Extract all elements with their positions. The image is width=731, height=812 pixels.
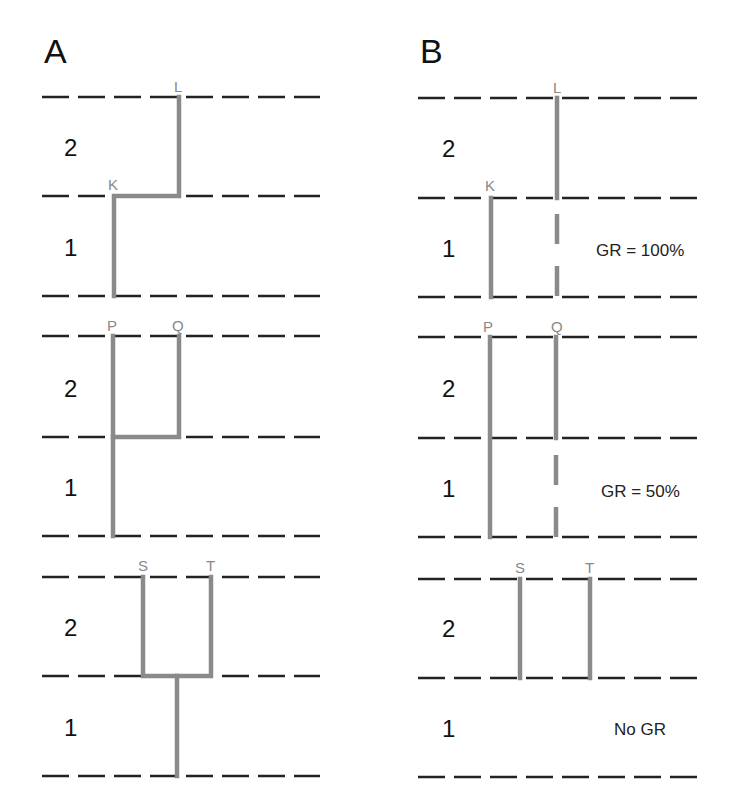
layer-number-2: 2	[442, 135, 455, 162]
panel-a-row-3: 2 1 S T	[42, 557, 320, 776]
node-label-k: K	[485, 177, 495, 194]
layer-number-2: 2	[64, 134, 77, 161]
layer-number-2: 2	[64, 375, 77, 402]
node-label-t: T	[206, 557, 215, 574]
lineage-path-s-t	[143, 577, 211, 676]
node-label-q: Q	[551, 318, 563, 335]
layer-number-1: 1	[442, 475, 455, 502]
layer-number-1: 1	[64, 474, 77, 501]
node-label-k: K	[108, 176, 118, 193]
gr-label-none: No GR	[614, 720, 666, 739]
node-label-l: L	[553, 79, 561, 96]
node-label-s: S	[515, 559, 525, 576]
panel-a: 2 1 L K 2 1 P Q 2 1 S T	[42, 78, 320, 776]
layer-number-2: 2	[442, 375, 455, 402]
layer-number-1: 1	[64, 234, 77, 261]
layer-number-2: 2	[442, 615, 455, 642]
lineage-path-q	[113, 336, 179, 437]
node-label-q: Q	[172, 317, 184, 334]
layer-number-1: 1	[64, 714, 77, 741]
node-label-t: T	[585, 559, 594, 576]
panel-a-row-1: 2 1 L K	[42, 78, 320, 296]
panel-b: 2 1 L K GR = 100% 2 1 P Q GR = 50%	[418, 79, 700, 777]
gr-label-50: GR = 50%	[601, 482, 680, 501]
gene-tree-diagram: A B 2 1 L K 2 1 P Q	[0, 0, 731, 812]
panel-label-a: A	[44, 32, 67, 70]
node-label-l: L	[174, 78, 182, 95]
lineage-path-k-l	[114, 97, 179, 296]
panel-label-b: B	[420, 32, 443, 70]
node-label-p: P	[483, 318, 493, 335]
layer-number-2: 2	[64, 614, 77, 641]
gr-label-100: GR = 100%	[596, 241, 684, 260]
layer-number-1: 1	[442, 235, 455, 262]
layer-number-1: 1	[442, 715, 455, 742]
node-label-s: S	[138, 557, 148, 574]
panel-a-row-2: 2 1 P Q	[42, 317, 320, 536]
panel-b-row-2: 2 1 P Q GR = 50%	[418, 318, 700, 537]
panel-b-row-3: 2 1 S T No GR	[418, 559, 700, 777]
node-label-p: P	[107, 317, 117, 334]
panel-b-row-1: 2 1 L K GR = 100%	[418, 79, 700, 297]
